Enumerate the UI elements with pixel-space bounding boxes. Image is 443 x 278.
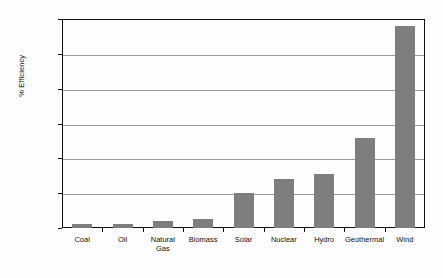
x-tick-mark (344, 228, 345, 232)
bar[interactable] (153, 221, 173, 228)
bar[interactable] (274, 179, 294, 228)
bar[interactable] (113, 224, 133, 228)
x-tick-label: Coal (62, 235, 102, 244)
x-tick-label: Biomass (183, 235, 223, 244)
bar[interactable] (193, 219, 213, 228)
y-tick-mark (58, 228, 62, 229)
bar[interactable] (355, 138, 375, 228)
x-tick-mark (304, 228, 305, 232)
bar[interactable] (395, 26, 415, 228)
x-tick-label: Nuclear (264, 235, 304, 244)
y-axis-title: % Efficiency (18, 21, 26, 131)
x-tick-mark (183, 228, 184, 232)
bar[interactable] (234, 193, 254, 228)
x-tick-mark (223, 228, 224, 232)
bar[interactable] (314, 174, 334, 228)
bar-chart: % Efficiency 1,2001,0008006004002000 Coa… (0, 0, 443, 278)
x-tick-mark (264, 228, 265, 232)
x-tick-label: Hydro (304, 235, 344, 244)
x-tick-mark (143, 228, 144, 232)
x-tick-mark (385, 228, 386, 232)
x-tick-mark (102, 228, 103, 232)
x-tick-label: Solar (223, 235, 263, 244)
bars-layer (62, 19, 425, 228)
x-tick-label: Natural Gas (143, 235, 183, 253)
x-tick-label: Geothermal (344, 235, 384, 244)
x-tick-label: Oil (102, 235, 142, 244)
bar[interactable] (72, 224, 92, 228)
x-tick-label: Wind (385, 235, 425, 244)
